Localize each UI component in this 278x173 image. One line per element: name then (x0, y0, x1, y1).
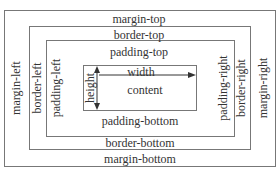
width-arrowhead-icon (188, 72, 196, 78)
height-arrowhead-up-icon (94, 66, 100, 73)
height-arrowhead-down-icon (94, 103, 100, 110)
dimension-arrows (0, 0, 278, 173)
width-arrow (99, 72, 196, 78)
height-arrow (94, 66, 100, 110)
